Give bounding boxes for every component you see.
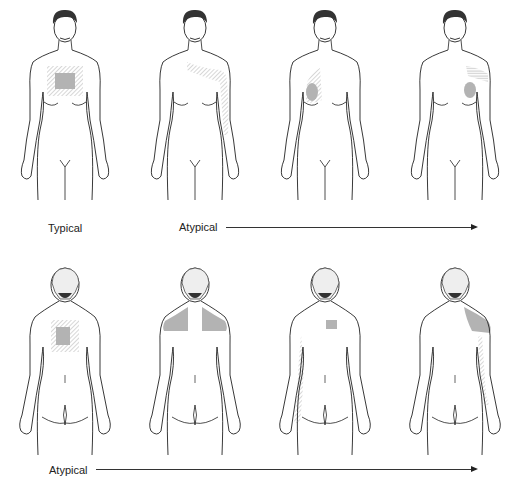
- front-figure-atypical-3: [390, 0, 520, 200]
- atypical-label-bottom: Atypical: [49, 464, 88, 476]
- pain-region: [326, 320, 337, 329]
- front-figure-atypical-1: [130, 0, 260, 200]
- atypical-label-top: Atypical: [179, 221, 218, 233]
- pain-region: [306, 83, 318, 101]
- hatch-region: [466, 66, 488, 82]
- atypical-arrow-bottom: [96, 469, 476, 470]
- pain-region-right: [202, 307, 227, 331]
- pain-region-left: [163, 307, 188, 331]
- typical-label: Typical: [48, 222, 82, 234]
- back-figure-atypical-1: [0, 255, 130, 455]
- back-figure-atypical-2: [130, 255, 260, 455]
- pain-region: [55, 73, 75, 89]
- front-figure-atypical-2: [260, 0, 390, 200]
- pain-region: [56, 327, 70, 345]
- back-figure-atypical-3: [260, 255, 390, 455]
- back-figure-atypical-4: [390, 255, 520, 455]
- front-figure-typical: [0, 0, 130, 200]
- atypical-arrow-top: [226, 227, 476, 228]
- pain-region: [464, 82, 476, 98]
- hatch-region: [187, 62, 228, 135]
